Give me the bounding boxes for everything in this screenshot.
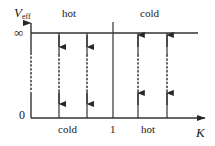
region-label-top-hot: hot [62, 8, 76, 19]
region-label-top-cold: cold [140, 8, 159, 19]
y-tick-zero: 0 [19, 109, 25, 121]
region-label-bottom-cold: cold [58, 124, 77, 135]
x-axis-label: K [196, 126, 205, 139]
y-axis-label-sub: eff [22, 12, 31, 21]
y-axis-label: Veff [14, 6, 31, 19]
y-tick-infinity: ∞ [14, 26, 23, 39]
region-label-bottom-hot: hot [141, 124, 155, 135]
figure-canvas [0, 0, 215, 146]
rg-flow-diagram: Veff ∞ 0 K hot cold cold 1 hot [0, 0, 215, 146]
x-tick-one: 1 [110, 124, 116, 135]
y-axis-label-main: V [14, 5, 22, 20]
